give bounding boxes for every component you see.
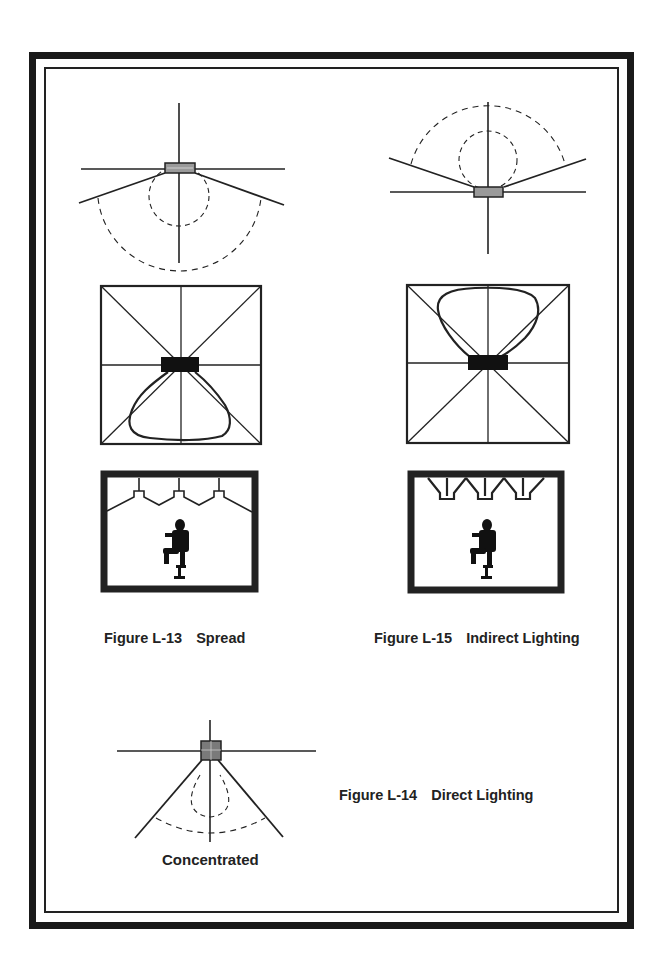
figure-l13-title: Spread bbox=[196, 630, 245, 646]
figure-l15-title: Indirect Lighting bbox=[466, 630, 580, 646]
spread-polar-diagram bbox=[79, 103, 285, 271]
figure-l14-title: Direct Lighting bbox=[431, 787, 533, 803]
seated-person-icon bbox=[163, 519, 189, 579]
fixture-icon bbox=[474, 187, 503, 197]
spread-room-elevation bbox=[104, 474, 255, 589]
figure-l14-caption: Figure L-14Direct Lighting bbox=[339, 787, 533, 803]
fixture-icon bbox=[468, 355, 508, 370]
spread-room-plan bbox=[101, 286, 261, 444]
figure-l15-caption: Figure L-15Indirect Lighting bbox=[374, 630, 580, 646]
concentrated-polar-diagram bbox=[117, 720, 316, 842]
figure-l13-caption: Figure L-13Spread bbox=[104, 630, 245, 646]
seated-person-icon bbox=[470, 519, 496, 579]
indirect-room-plan bbox=[407, 285, 569, 443]
fixture-icon bbox=[161, 357, 199, 372]
diagram-canvas bbox=[0, 0, 655, 961]
indirect-polar-diagram bbox=[389, 102, 586, 254]
indirect-room-elevation bbox=[411, 474, 561, 590]
figure-l14-number: Figure L-14 bbox=[339, 787, 417, 803]
concentrated-label: Concentrated bbox=[162, 851, 259, 868]
figure-l13-number: Figure L-13 bbox=[104, 630, 182, 646]
figure-l15-number: Figure L-15 bbox=[374, 630, 452, 646]
